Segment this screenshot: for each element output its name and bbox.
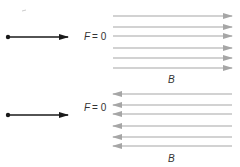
field-label: B xyxy=(168,74,175,85)
artifact-mark xyxy=(22,10,26,11)
force-label: F= 0 xyxy=(84,102,107,113)
magnetic-field-diagram: F= 0BF= 0B xyxy=(0,0,240,167)
field-label: B xyxy=(168,153,175,164)
panel-parallel: F= 0B xyxy=(6,16,232,85)
panel-antiparallel: F= 0B xyxy=(6,94,232,164)
force-label: F= 0 xyxy=(84,31,107,42)
